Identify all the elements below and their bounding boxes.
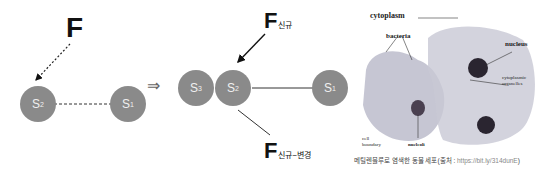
node-subscript: 1 xyxy=(130,101,134,108)
node-s3: S3 xyxy=(178,70,214,106)
force-letter: F xyxy=(264,8,277,33)
node-label: S xyxy=(227,81,235,95)
node-s1-left: S1 xyxy=(110,86,146,122)
label-nucleoli: nucleoli xyxy=(408,142,425,147)
label-nucleus: nucleus xyxy=(505,40,528,48)
label-line: organelles xyxy=(502,81,526,87)
label-line: boundary xyxy=(362,142,381,148)
node-label: S xyxy=(32,97,40,111)
micrograph-caption: 메틸렌블루로 염색한 동물 세포(출처 : https://bit.ly/314… xyxy=(354,155,520,165)
node-s2-left: S2 xyxy=(20,86,56,122)
force-new-change-line xyxy=(238,110,270,135)
node-subscript: 1 xyxy=(332,85,336,92)
node-label: S xyxy=(122,97,130,111)
force-arrow-dotted xyxy=(36,44,70,80)
node-label: S xyxy=(324,81,332,95)
force-subscript: 신규−변경 xyxy=(278,151,311,160)
label-cytoplasmic-organelles: cytoplasmic organelles xyxy=(502,75,526,87)
node-subscript: 2 xyxy=(40,101,44,108)
node-subscript: 3 xyxy=(198,85,202,92)
transition-arrow-icon: ⇒ xyxy=(147,76,160,95)
label-cell-boundary: cell boundary xyxy=(362,136,381,148)
label-bacteria: bacteria xyxy=(386,32,411,40)
force-letter: F xyxy=(264,138,277,163)
node-label: S xyxy=(190,81,198,95)
node-subscript: 2 xyxy=(235,85,239,92)
caption-text: 메틸렌블루로 염색한 동물 세포(출처 : xyxy=(354,157,457,164)
node-s2: S2 xyxy=(215,70,251,106)
force-label: F xyxy=(66,12,83,44)
force-new-label: F신규 xyxy=(264,8,292,34)
force-subscript: 신규 xyxy=(278,21,292,30)
caption-end: ) xyxy=(518,157,520,164)
label-cytoplasm: cytoplasm xyxy=(370,11,405,20)
force-new-change-label: F신규−변경 xyxy=(264,138,311,164)
node-s1: S1 xyxy=(312,70,348,106)
force-new-arrow xyxy=(238,34,265,62)
caption-link[interactable]: https://bit.ly/314dunE xyxy=(457,157,518,164)
